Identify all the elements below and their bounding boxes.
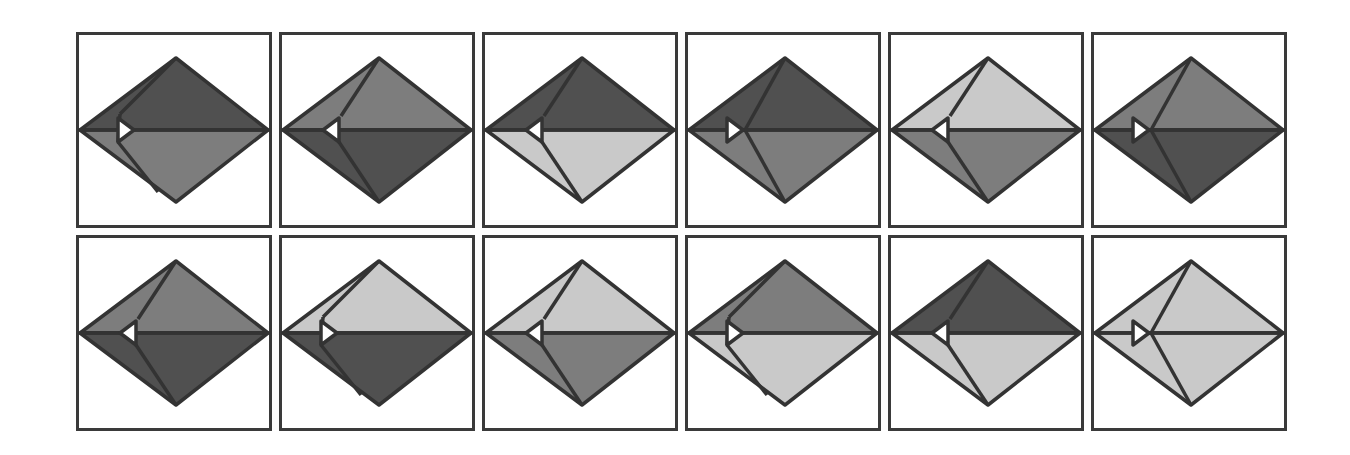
lower-half [1095, 333, 1283, 405]
lower-half [486, 130, 674, 202]
lower-half [80, 130, 268, 202]
diamond-figure [76, 32, 272, 228]
upper-half [486, 261, 674, 333]
diamond-figure [685, 235, 881, 431]
upper-half [1095, 261, 1283, 333]
diamond-panel-1[interactable] [76, 32, 272, 228]
diamond-panel-5[interactable] [888, 32, 1084, 228]
diamond-panel-12[interactable] [1091, 235, 1287, 431]
lower-half [892, 333, 1080, 405]
lower-half [689, 333, 877, 405]
diamond-figure [279, 32, 475, 228]
diamond-panel-3[interactable] [482, 32, 678, 228]
diamond-figure [482, 32, 678, 228]
upper-half [892, 58, 1080, 130]
lower-half [283, 130, 471, 202]
diamond-panel-6[interactable] [1091, 32, 1287, 228]
diamond-figure [1091, 32, 1287, 228]
diamond-panel-7[interactable] [76, 235, 272, 431]
lower-half [283, 333, 471, 405]
lower-half [80, 333, 268, 405]
upper-half [689, 261, 877, 333]
lower-half [689, 130, 877, 202]
diamond-panel-10[interactable] [685, 235, 881, 431]
diamond-panel-9[interactable] [482, 235, 678, 431]
lower-half [892, 130, 1080, 202]
upper-half [892, 261, 1080, 333]
diamond-figure [685, 32, 881, 228]
upper-half [1095, 58, 1283, 130]
diamond-panel-2[interactable] [279, 32, 475, 228]
upper-half [80, 58, 268, 130]
diamond-panel-grid [76, 32, 1288, 437]
diamond-figure [888, 235, 1084, 431]
upper-half [283, 58, 471, 130]
upper-half [486, 58, 674, 130]
diamond-figure [76, 235, 272, 431]
lower-half [486, 333, 674, 405]
upper-half [283, 261, 471, 333]
diamond-panel-11[interactable] [888, 235, 1084, 431]
diamond-figure [279, 235, 475, 431]
diamond-panel-8[interactable] [279, 235, 475, 431]
lower-half [1095, 130, 1283, 202]
diamond-figure [888, 32, 1084, 228]
diamond-figure [482, 235, 678, 431]
upper-half [689, 58, 877, 130]
diamond-figure [1091, 235, 1287, 431]
diamond-panel-4[interactable] [685, 32, 881, 228]
upper-half [80, 261, 268, 333]
